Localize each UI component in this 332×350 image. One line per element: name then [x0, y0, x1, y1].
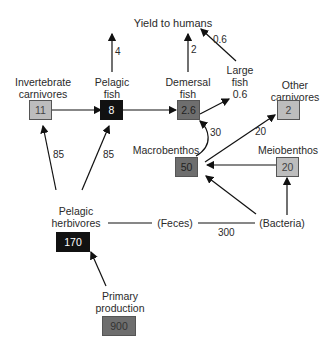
other-carnivores-box: 2	[277, 100, 300, 120]
primary-production-box: 900	[102, 316, 136, 336]
label-line: Large	[222, 64, 258, 76]
flow-label-demersal-yield: 2	[191, 44, 197, 55]
label-line: fish	[85, 88, 139, 100]
label-line: Other	[260, 79, 330, 91]
label-line: production	[90, 302, 150, 314]
macrobenthos-label: Macrobenthos	[128, 144, 204, 156]
label-line: Pelagic	[85, 76, 139, 88]
label-line: Pelagic	[42, 205, 110, 217]
invertebrate-carnivores-label: Invertebrate carnivores	[5, 76, 81, 100]
flow-label-herbivores-invert: 85	[53, 149, 64, 160]
label-line: carnivores	[5, 88, 81, 100]
pelagic-fish-box: 8	[100, 100, 123, 120]
label-line: Demersal	[160, 76, 216, 88]
flow-label-macro-other: 20	[255, 126, 266, 137]
flow-label-herbivores-pelagic-fish: 85	[103, 149, 114, 160]
bacteria-label: (Bacteria)	[254, 217, 310, 229]
label-line: herbivores	[42, 217, 110, 229]
pelagic-herbivores-box: 170	[56, 232, 90, 252]
flow-label-macro-demersal: 30	[210, 127, 221, 138]
flow-label-feces-bacteria: 300	[218, 227, 235, 238]
label-line: fish	[160, 88, 216, 100]
label-line: Primary	[90, 290, 150, 302]
label-line: Invertebrate	[5, 76, 81, 88]
flow-label-large-fish-yield: 0.6	[213, 34, 227, 45]
pelagic-fish-label: Pelagic fish	[85, 76, 139, 100]
invertebrate-carnivores-box: 11	[29, 100, 52, 120]
demersal-fish-box: 2.6	[177, 100, 200, 120]
feces-label: (Feces)	[150, 217, 200, 229]
primary-production-label: Primary production	[90, 290, 150, 314]
yield-to-humans-label: Yield to humans	[113, 17, 233, 29]
flow-label-pelagic-fish-yield: 4	[115, 46, 121, 57]
macrobenthos-box: 50	[175, 157, 198, 177]
meiobenthos-box: 20	[276, 157, 299, 177]
pelagic-herbivores-label: Pelagic herbivores	[42, 205, 110, 229]
meiobenthos-label: Meiobenthos	[250, 144, 326, 156]
label-line: fish	[222, 76, 258, 88]
large-fish-label: Large fish 0.6	[222, 64, 258, 100]
large-fish-value: 0.6	[222, 88, 258, 100]
demersal-fish-label: Demersal fish	[160, 76, 216, 100]
